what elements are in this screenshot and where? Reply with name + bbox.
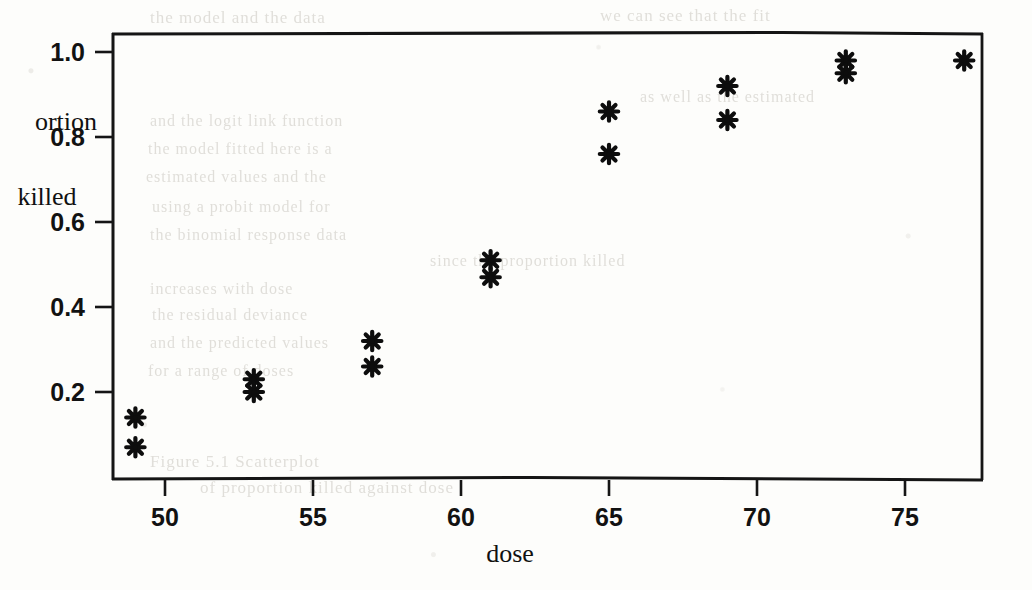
data-point-marker-core	[370, 364, 375, 369]
y-axis-title-line-1: ortion	[35, 107, 97, 136]
y-tick-label: 0.6	[50, 208, 85, 236]
x-tick-label: 75	[891, 503, 919, 531]
y-tick-label: 1.0	[50, 38, 85, 66]
x-axis-tick-labels: 505560657075	[151, 503, 919, 531]
data-point-marker-core	[370, 338, 375, 343]
x-tick-label: 50	[151, 503, 179, 531]
y-tick-label: 0.4	[50, 293, 85, 321]
y-axis-ticks	[95, 52, 112, 392]
plot-frame-bottom	[112, 478, 983, 481]
y-tick-label: 0.2	[50, 378, 85, 406]
y-axis-title-line-2: killed	[17, 182, 76, 211]
data-point-marker-core	[962, 58, 967, 63]
data-point-markers	[126, 51, 973, 456]
data-point-marker-core	[606, 151, 611, 156]
x-tick-label: 60	[447, 503, 475, 531]
x-tick-label: 65	[595, 503, 623, 531]
plot-frame-top	[112, 33, 983, 35]
plot-canvas: 505560657075 0.20.40.60.81.0 dose ortion…	[0, 0, 1032, 590]
data-point-marker-core	[488, 275, 493, 280]
data-point-marker-core	[725, 117, 730, 122]
scatter-chart: 505560657075 0.20.40.60.81.0 dose ortion…	[0, 0, 1032, 590]
data-point-marker-core	[843, 71, 848, 76]
data-point-marker-core	[488, 258, 493, 263]
plot-frame	[112, 33, 983, 481]
data-point-marker-core	[133, 415, 138, 420]
data-point-marker-core	[251, 389, 256, 394]
x-tick-label: 70	[743, 503, 771, 531]
data-point-marker-core	[725, 83, 730, 88]
x-tick-label: 55	[299, 503, 327, 531]
x-axis-title: dose	[486, 539, 534, 568]
data-point-marker-core	[606, 109, 611, 114]
x-axis-ticks	[165, 480, 905, 496]
y-axis-tick-labels: 0.20.40.60.81.0	[50, 38, 85, 406]
data-point-marker-core	[133, 445, 138, 450]
